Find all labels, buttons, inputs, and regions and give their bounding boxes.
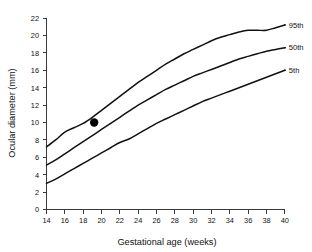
x-tick-label: 32 <box>207 216 215 225</box>
y-tick-label: 18 <box>31 49 39 58</box>
y-tick-label: 12 <box>31 101 39 110</box>
y-tick-label: 16 <box>31 66 39 75</box>
x-tick-label: 28 <box>171 216 179 225</box>
y-axis-title: Ocular diameter (mm) <box>7 68 17 157</box>
y-tick-label: 2 <box>35 188 39 197</box>
chart-page: 0 2 4 6 8 10 12 14 16 18 20 22 <box>0 0 312 252</box>
x-axis-title: Gestational age (weeks) <box>117 237 216 247</box>
measurement-point-marker <box>90 118 98 126</box>
curve-5th-percentile <box>47 70 285 183</box>
x-tick-label: 38 <box>262 216 270 225</box>
x-tick-label: 14 <box>42 216 50 225</box>
x-tick-label: 24 <box>134 216 142 225</box>
y-tick-label: 4 <box>35 171 39 180</box>
y-axis-ticks: 0 2 4 6 8 10 12 14 16 18 20 22 <box>31 14 47 214</box>
y-tick-label: 6 <box>35 153 39 162</box>
x-axis-ticks: 14 16 18 20 22 24 26 28 30 32 34 36 38 <box>42 210 289 225</box>
y-tick-label: 14 <box>31 84 39 93</box>
series-label-95th: 95th <box>289 21 304 30</box>
x-tick-label: 22 <box>116 216 124 225</box>
x-tick-label: 20 <box>97 216 105 225</box>
x-tick-label: 40 <box>281 216 289 225</box>
series-label-50th: 50th <box>289 43 304 52</box>
y-tick-label: 20 <box>31 31 39 40</box>
y-tick-label: 8 <box>35 136 39 145</box>
x-tick-label: 18 <box>79 216 87 225</box>
x-tick-label: 26 <box>152 216 160 225</box>
y-tick-label: 0 <box>35 205 39 214</box>
ocular-diameter-growth-chart: 0 2 4 6 8 10 12 14 16 18 20 22 <box>0 0 312 252</box>
curve-95th-percentile <box>47 25 285 147</box>
x-tick-label: 16 <box>61 216 69 225</box>
series-label-5th: 5th <box>289 66 300 75</box>
x-tick-label: 34 <box>226 216 234 225</box>
curve-50th-percentile <box>47 48 285 165</box>
x-tick-label: 36 <box>244 216 252 225</box>
x-tick-label: 30 <box>189 216 197 225</box>
y-tick-label: 10 <box>31 118 39 127</box>
y-tick-label: 22 <box>31 14 39 23</box>
